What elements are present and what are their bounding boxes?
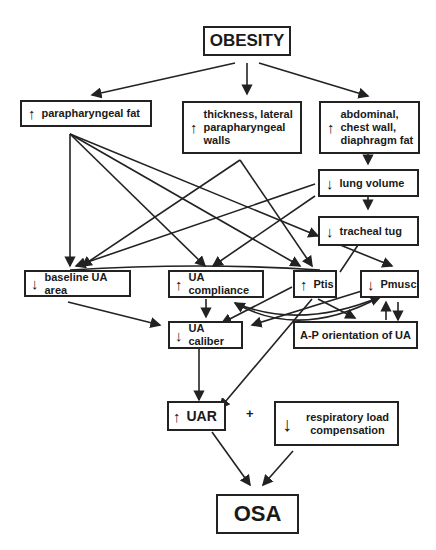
arrow-up-icon: ↑ [175, 277, 183, 292]
node-label: OBESITY [210, 31, 285, 51]
arrow-down-icon: ↓ [282, 414, 292, 434]
node-label: UA compliance [189, 271, 263, 297]
arrow-down-icon: ↓ [31, 276, 39, 291]
node-baseline-ua-area: ↓ baseline UA area [24, 270, 131, 297]
arrow-up-icon: ↑ [190, 120, 198, 135]
node-thickness-walls: ↑ thickness, lateral parapharyngeal wall… [182, 101, 302, 154]
node-label: Pmusc [381, 278, 417, 291]
arrow-down-icon: ↓ [326, 224, 334, 239]
node-pmusc: ↓ Pmusc [360, 270, 419, 298]
node-ua-compliance: ↑ UA compliance [168, 270, 264, 298]
arrow-down-icon: ↓ [175, 328, 183, 343]
node-ua-caliber: ↓ UA caliber [168, 321, 243, 349]
node-obesity: OBESITY [203, 26, 291, 56]
node-label: lung volume [340, 177, 405, 190]
node-ptis: ↑ Ptis [293, 270, 337, 298]
arrow-up-icon: ↑ [173, 409, 181, 424]
plus-sign: + [246, 406, 254, 421]
node-abdominal-fat: ↑ abdominal, chest wall, diaphragm fat [319, 101, 420, 154]
node-label: respiratory load compensation [298, 411, 397, 437]
arrow-up-icon: ↑ [300, 277, 308, 292]
node-label: Ptis [314, 278, 334, 291]
node-respiratory-load-compensation: ↓ respiratory load compensation [274, 401, 399, 446]
node-label: A-P orientation of UA [300, 329, 411, 342]
arrow-up-icon: ↑ [28, 106, 36, 121]
node-label: OSA [234, 501, 282, 527]
node-label: UA caliber [189, 322, 242, 348]
node-tracheal-tug: ↓ tracheal tug [318, 216, 419, 246]
node-uar: ↑ UAR [167, 401, 226, 431]
node-label: tracheal tug [340, 225, 402, 238]
arrow-down-icon: ↓ [326, 176, 334, 191]
node-parapharyngeal-fat: ↑ parapharyngeal fat [20, 100, 152, 127]
arrow-down-icon: ↓ [367, 277, 375, 292]
node-label: UAR [187, 410, 217, 423]
node-osa: OSA [216, 494, 299, 534]
node-ap-orientation: A-P orientation of UA [293, 321, 418, 349]
node-label: baseline UA area [45, 271, 130, 297]
node-lung-volume: ↓ lung volume [318, 169, 419, 197]
arrow-up-icon: ↑ [327, 120, 335, 135]
node-label: parapharyngeal fat [42, 107, 140, 120]
node-label: thickness, lateral parapharyngeal walls [204, 108, 301, 147]
node-label: abdominal, chest wall, diaphragm fat [341, 108, 419, 147]
